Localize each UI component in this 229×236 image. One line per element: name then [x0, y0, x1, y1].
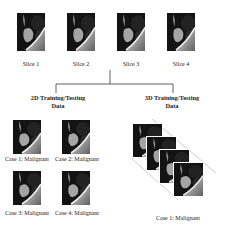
case-1-label: Case 1: Malignant — [0, 156, 55, 163]
case-2-label: Case 2: Malignant — [49, 156, 105, 163]
branch-2d-title-line1: 2D Training/Testing — [18, 94, 98, 102]
case-4-label: Case 4: Malignant — [49, 210, 105, 217]
case-4-scan-image — [62, 171, 90, 205]
slice-1-label: Slice 1 — [9, 61, 53, 68]
slice-1-scan-image — [17, 13, 45, 51]
slice-3-label: Slice 3 — [109, 61, 153, 68]
case-3-scan-image — [13, 171, 41, 205]
case-1-scan-image — [13, 120, 41, 154]
slice-3-scan-image — [117, 13, 145, 51]
branch-3d-title-line2: Data — [132, 102, 212, 110]
slice-4-scan-image — [167, 13, 195, 51]
case-2-scan-image — [62, 120, 90, 154]
slice-4-label: Slice 4 — [159, 61, 203, 68]
slice-2-label: Slice 2 — [59, 61, 103, 68]
slice-2-scan-image — [67, 13, 95, 51]
stack-slice-4-scan-image — [173, 162, 204, 197]
branch-2d-title: 2D Training/Testing Data — [18, 94, 98, 109]
case-3-label: Case 3: Malignant — [0, 210, 55, 217]
stack-case-label: Case 1: Malignant — [150, 215, 206, 222]
branch-3d-title-line1: 3D Training/Testing — [132, 94, 212, 102]
branch-3d-title: 3D Training/Testing Data — [132, 94, 212, 109]
figure-canvas: Slice 1 Slice 2 Slice 3 Slice 4 2D Train… — [0, 0, 229, 236]
tree-connector — [56, 70, 173, 93]
branch-2d-title-line2: Data — [18, 102, 98, 110]
